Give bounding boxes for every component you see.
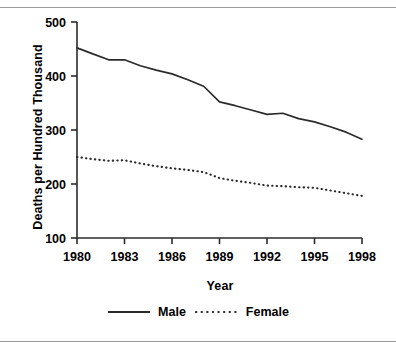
x-tick-label: 1980 — [63, 250, 91, 264]
x-tick-label: 1998 — [348, 250, 376, 264]
legend-label-female: Female — [246, 305, 289, 319]
y-tick-label: 200 — [45, 178, 66, 192]
x-tick-label: 1992 — [253, 250, 281, 264]
y-tick-label: 500 — [45, 16, 66, 30]
y-tick-label: 100 — [45, 232, 66, 246]
series-line-male — [77, 48, 362, 139]
legend-swatch-male-solid-line — [107, 307, 151, 317]
chart-legend: Male Female — [0, 305, 396, 319]
series-line-female — [77, 157, 362, 196]
y-axis-tick-labels: 100200300400500 — [45, 16, 66, 246]
y-tick-label: 300 — [45, 124, 66, 138]
y-axis-title-text: Deaths per Hundred Thousand — [31, 44, 45, 229]
legend-entry-female: Female — [195, 305, 289, 319]
line-chart-plot: 100200300400500 198019831986198919921995… — [0, 0, 396, 350]
data-series-group — [77, 48, 362, 196]
legend-entry-male: Male — [107, 305, 186, 319]
legend-label-male: Male — [158, 305, 186, 319]
chart-figure: 100200300400500 198019831986198919921995… — [0, 0, 396, 350]
x-tick-label: 1983 — [111, 250, 139, 264]
legend-swatch-female-dotted-line — [195, 307, 239, 317]
x-axis-title-text: Year — [207, 279, 234, 293]
x-axis-ticks — [77, 238, 362, 244]
x-tick-label: 1995 — [301, 250, 329, 264]
x-axis-tick-labels: 1980198319861989199219951998 — [63, 250, 376, 264]
y-axis-ticks — [71, 22, 77, 238]
y-tick-label: 400 — [45, 70, 66, 84]
x-tick-label: 1986 — [158, 250, 186, 264]
y-axis-title: Deaths per Hundred Thousand — [28, 12, 46, 262]
x-axis-title: Year — [77, 276, 363, 294]
x-tick-label: 1989 — [206, 250, 234, 264]
